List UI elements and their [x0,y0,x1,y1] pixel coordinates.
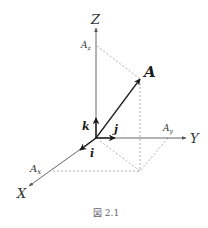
ax-label: Ax [29,163,41,176]
dashed-ay-to-corner [140,138,168,171]
figure-caption: 図 2.1 [93,208,119,218]
unit-vector-k-label: k [82,120,90,133]
az-label: Az [80,40,92,51]
y-axis-label: Y [190,131,200,146]
ay-label: Ay [162,123,174,135]
vector-diagram: Z Y X Az Ay Ax A k j i 図 2.1 [0,0,208,228]
unit-vector-j-label: j [112,123,118,136]
unit-vector-i-label: i [90,147,94,160]
vector-a-label: A [142,63,156,81]
z-axis-label: Z [90,12,101,27]
axes [29,28,186,186]
x-axis-label: X [16,186,27,201]
dashed-origin-to-corner [100,141,140,171]
dashed-az-to-a [97,46,140,79]
vector-a [96,79,140,138]
